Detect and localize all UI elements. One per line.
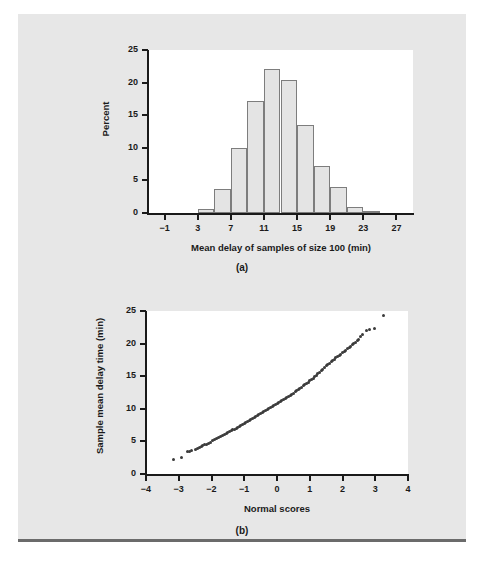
histogram-y-tick-label: 25	[108, 44, 138, 54]
qq-point	[382, 314, 385, 317]
qq-point	[190, 449, 193, 452]
histogram-x-tick	[197, 214, 199, 220]
histogram-x-tick	[362, 214, 364, 220]
qq-y-tick-label: 25	[106, 305, 136, 315]
histogram-y-tick	[142, 147, 148, 149]
histogram-bar	[314, 166, 331, 213]
qq-y-tick-label: 10	[106, 403, 136, 413]
histogram-x-tick	[329, 214, 331, 220]
qq-x-tick	[309, 475, 311, 481]
qq-y-tick-label: 0	[106, 468, 136, 478]
qq-y-tick	[140, 408, 146, 410]
histogram-x-tick	[395, 214, 397, 220]
figure-panel: 0510152025 −1371115192327 Percent Mean d…	[18, 14, 466, 542]
qq-x-tick	[211, 475, 213, 481]
histogram-y-tick-label: 15	[108, 109, 138, 119]
histogram-y-tick-label: 5	[108, 174, 138, 184]
qq-y-axis	[145, 311, 147, 475]
qq-x-tick	[342, 475, 344, 481]
qq-y-tick-label: 5	[106, 435, 136, 445]
qq-y-tick	[140, 375, 146, 377]
qq-point	[357, 338, 360, 341]
histogram-y-axis-title: Percent	[100, 89, 111, 149]
histogram-y-tick	[142, 114, 148, 116]
histogram-plot-area	[148, 50, 413, 213]
qq-point	[368, 328, 371, 331]
qq-x-tick	[178, 475, 180, 481]
figure-a-caption: (a)	[18, 262, 466, 273]
histogram-y-tick-label: 10	[108, 142, 138, 152]
figure-a-histogram: 0510152025 −1371115192327 Percent Mean d…	[18, 14, 466, 272]
page-canvas: 0510152025 −1371115192327 Percent Mean d…	[0, 0, 484, 563]
qq-x-tick-label: 4	[388, 484, 428, 494]
histogram-bar	[247, 101, 264, 213]
qq-x-tick	[374, 475, 376, 481]
qq-x-axis-title: Normal scores	[146, 503, 408, 514]
qq-y-tick-label: 20	[106, 338, 136, 348]
qq-y-tick	[140, 310, 146, 312]
qq-x-tick	[243, 475, 245, 481]
qq-y-tick	[140, 440, 146, 442]
qq-point	[172, 458, 175, 461]
figure-b-caption: (b)	[18, 525, 466, 536]
histogram-x-tick	[230, 214, 232, 220]
qq-point	[373, 327, 376, 330]
histogram-y-tick	[142, 179, 148, 181]
histogram-y-tick	[142, 212, 148, 214]
histogram-y-tick	[142, 82, 148, 84]
histogram-x-axis-title: Mean delay of samples of size 100 (min)	[148, 242, 414, 253]
histogram-bar	[297, 125, 314, 213]
histogram-y-axis	[147, 50, 149, 214]
histogram-x-tick	[164, 214, 166, 220]
histogram-bar	[281, 80, 298, 213]
histogram-x-tick	[263, 214, 265, 220]
qq-plot-area	[146, 311, 408, 474]
histogram-x-axis	[147, 213, 414, 215]
qq-y-tick-label: 15	[106, 370, 136, 380]
qq-x-tick	[407, 475, 409, 481]
histogram-bar	[214, 189, 231, 213]
qq-x-tick	[276, 475, 278, 481]
histogram-x-tick-label: 27	[376, 223, 416, 233]
histogram-x-tick	[296, 214, 298, 220]
qq-y-axis-title: Sample mean delay time (min)	[94, 301, 105, 471]
histogram-y-tick	[142, 49, 148, 51]
histogram-y-tick-label: 20	[108, 77, 138, 87]
qq-point	[361, 333, 364, 336]
qq-x-tick	[145, 475, 147, 481]
histogram-y-tick-label: 0	[108, 207, 138, 217]
histogram-bar	[264, 69, 281, 213]
qq-point	[180, 456, 183, 459]
qq-y-tick	[140, 343, 146, 345]
histogram-bar	[231, 148, 248, 213]
histogram-bar	[330, 187, 347, 213]
figure-b-normal-probability-plot: 0510152025 −4−3−2−101234 Sample mean del…	[18, 296, 466, 542]
